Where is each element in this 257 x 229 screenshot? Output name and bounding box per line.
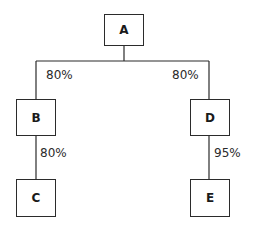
edge-label-a-b: 80% (46, 68, 73, 82)
node-b-label: B (31, 111, 40, 125)
edge-label-a-d: 80% (172, 68, 199, 82)
node-e-label: E (206, 191, 214, 205)
tree-diagram: A B C D E 80% 80% 80% 95% (0, 0, 257, 229)
node-c-label: C (32, 191, 41, 205)
node-d: D (190, 99, 230, 136)
node-d-label: D (205, 111, 215, 125)
node-a-label: A (119, 23, 128, 37)
node-c: C (16, 179, 56, 217)
node-b: B (16, 99, 56, 136)
node-e: E (190, 179, 230, 217)
edge-label-b-c: 80% (40, 146, 67, 160)
node-a: A (104, 14, 144, 46)
edge-label-d-e: 95% (214, 146, 241, 160)
